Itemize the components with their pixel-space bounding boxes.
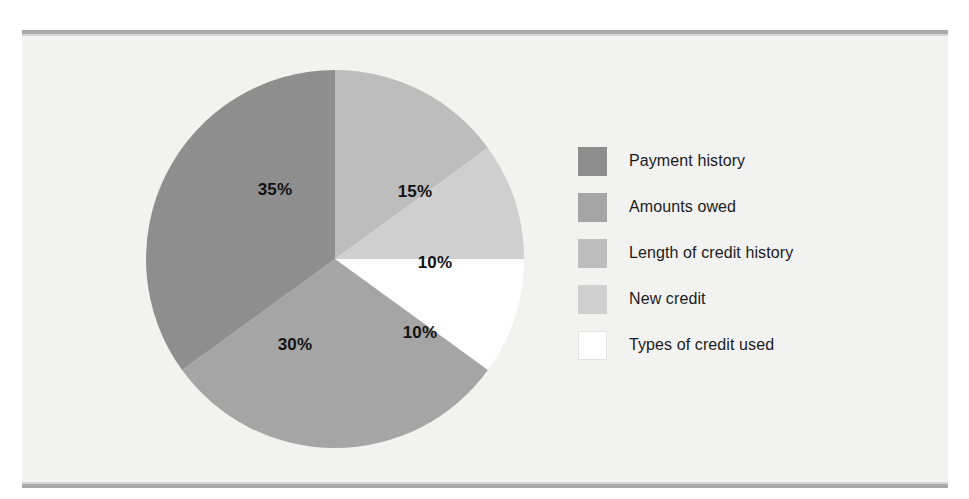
legend-item-label: Length of credit history [629,244,793,262]
chart-legend: Payment history Amounts owed Length of c… [578,138,898,368]
legend-item-label: New credit [629,290,706,308]
pie-slice-value-label: 10% [418,253,453,273]
pie-chart: 15%10%10%30%35% Payment history Amounts … [0,0,969,499]
legend-swatch-icon [578,239,607,268]
legend-item[interactable]: New credit [578,276,898,322]
legend-item-label: Payment history [629,152,745,170]
figure-page: 15%10%10%30%35% Payment history Amounts … [0,0,969,499]
pie-slice-value-label: 30% [278,335,313,355]
pie-svg [146,70,524,448]
pie-slice-value-label: 10% [403,323,438,343]
legend-swatch-icon [578,193,607,222]
pie-slice-value-label: 35% [258,180,293,200]
legend-item[interactable]: Payment history [578,138,898,184]
pie-slice-group [146,70,524,448]
legend-item-label: Amounts owed [629,198,736,216]
legend-item[interactable]: Amounts owed [578,184,898,230]
legend-swatch-icon [578,285,607,314]
pie-slice-value-label: 15% [398,182,433,202]
legend-item[interactable]: Length of credit history [578,230,898,276]
legend-item[interactable]: Types of credit used [578,322,898,368]
legend-item-label: Types of credit used [629,336,774,354]
pie-graphic [146,70,524,448]
legend-swatch-icon [578,147,607,176]
legend-swatch-icon [578,331,607,360]
